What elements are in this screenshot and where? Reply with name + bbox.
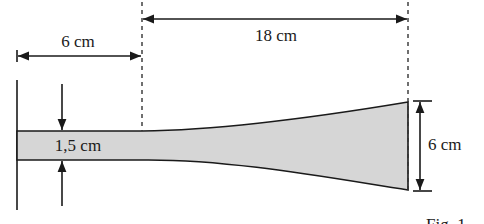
figure-caption: Fig. 1 xyxy=(426,215,466,224)
label-end-height: 6 cm xyxy=(428,135,462,154)
diagram: 6 cm 18 cm 1,5 cm 6 cm Fig. 1 xyxy=(0,0,484,224)
label-tapered-length: 18 cm xyxy=(255,26,297,45)
label-base-thickness: 1,5 cm xyxy=(55,136,101,155)
label-left-length: 6 cm xyxy=(61,32,95,51)
